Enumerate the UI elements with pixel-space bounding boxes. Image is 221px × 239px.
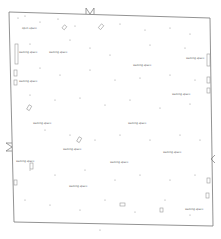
area-label: walking space (186, 57, 204, 60)
area-label: walking space (163, 151, 181, 154)
area-label: walking space (19, 80, 37, 83)
area-label: walking space (33, 122, 51, 125)
area-label: walking space (128, 122, 146, 125)
floor-plan (0, 0, 221, 239)
area-label: walking space (69, 185, 87, 188)
area-label: walking space (49, 51, 67, 54)
area-label: walking space (63, 148, 81, 151)
entrance-icon (6, 8, 215, 163)
area-label: open space (22, 27, 37, 30)
area-label: walking space (172, 93, 190, 96)
furniture-marks (14, 24, 210, 212)
area-label: walking space (133, 64, 151, 67)
area-label: walking space (19, 51, 37, 54)
area-label: walking space (185, 208, 203, 211)
area-label: walking space (16, 160, 34, 163)
area-label: walking space (110, 161, 128, 164)
